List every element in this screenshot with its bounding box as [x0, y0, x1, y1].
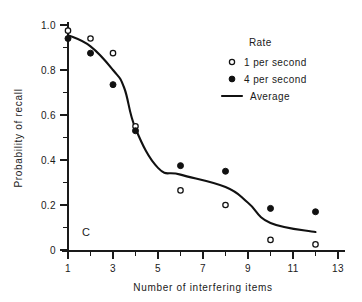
- y-axis-tick-labels: 1.0 0.8 0.6 0.4 0.2 0: [41, 20, 56, 256]
- data-point: [65, 36, 71, 42]
- data-point: [223, 168, 229, 174]
- data-point: [313, 242, 318, 247]
- x-tick-label-9: 9: [245, 263, 251, 274]
- figure-root: 1.0 0.8 0.6 0.4 0.2 0 Probability of rec…: [0, 0, 362, 302]
- data-point: [110, 50, 115, 55]
- legend-title: Rate: [249, 37, 272, 48]
- legend-entry-4-per-second: 4 per second: [229, 74, 307, 85]
- y-tick-label-0_2: 0.2: [41, 200, 56, 211]
- legend-entry-1-per-second: 1 per second: [229, 57, 306, 68]
- y-tick-label-0_6: 0.6: [41, 110, 56, 121]
- y-axis-minor-ticks: [63, 48, 68, 228]
- x-axis-major-ticks: [68, 251, 338, 259]
- open-circle-icon: [229, 59, 234, 64]
- y-tick-label-0_4: 0.4: [41, 155, 56, 166]
- x-tick-label-1: 1: [65, 263, 71, 274]
- data-point: [133, 128, 139, 134]
- y-tick-label-1_0: 1.0: [41, 20, 56, 31]
- data-point: [88, 36, 93, 41]
- filled-circle-icon: [229, 76, 235, 82]
- x-tick-label-5: 5: [155, 263, 161, 274]
- panel-label-c: C: [82, 226, 90, 238]
- y-axis-title: Probability of recall: [13, 88, 24, 187]
- x-axis-tick-labels: 1 3 5 7 9 11 13: [65, 263, 344, 274]
- x-axis-title: Number of interfering items: [133, 282, 273, 293]
- recall-probability-chart: 1.0 0.8 0.6 0.4 0.2 0 Probability of rec…: [0, 0, 362, 302]
- y-tick-label-0_8: 0.8: [41, 65, 56, 76]
- x-tick-label-7: 7: [200, 263, 206, 274]
- x-axis: 1 3 5 7 9 11 13 Number of interfering it…: [62, 251, 345, 293]
- data-point: [65, 28, 70, 33]
- y-axis: 1.0 0.8 0.6 0.4 0.2 0 Probability of rec…: [13, 20, 68, 256]
- data-point: [88, 50, 94, 56]
- data-point: [178, 163, 184, 169]
- data-point: [268, 205, 274, 211]
- x-tick-label-3: 3: [110, 263, 116, 274]
- legend-entry-average: Average: [222, 91, 290, 102]
- legend-label-4-per-second: 4 per second: [244, 74, 307, 85]
- data-point: [178, 188, 183, 193]
- legend-label-average: Average: [250, 91, 290, 102]
- legend: Rate 1 per second 4 per second Average: [222, 37, 307, 102]
- data-point: [313, 209, 319, 215]
- y-tick-label-0: 0: [50, 245, 56, 256]
- x-tick-label-11: 11: [287, 263, 298, 274]
- legend-label-1-per-second: 1 per second: [244, 57, 307, 68]
- x-tick-label-13: 13: [332, 263, 344, 274]
- data-point: [223, 202, 228, 207]
- data-point: [110, 82, 116, 88]
- data-point: [268, 237, 273, 242]
